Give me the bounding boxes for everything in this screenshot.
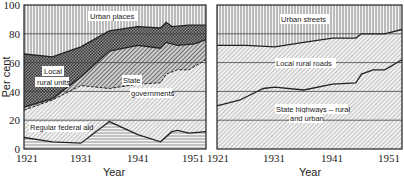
label-urban-streets: Urban streets — [281, 15, 326, 24]
left-chart: Urban places Local rural units State gov… — [0, 0, 206, 178]
label-governments: governments — [131, 89, 175, 98]
label-local: Local — [44, 67, 62, 76]
y-tick: 20 — [9, 114, 21, 126]
right-chart: Urban streets Local rural roads State hi… — [207, 5, 402, 178]
label-rural-units: rural units — [37, 78, 70, 87]
x-tick: 1941 — [127, 152, 149, 164]
x-tick: 1921 — [16, 152, 38, 164]
x-tick: 1931 — [263, 152, 285, 164]
y-tick: 100 — [4, 0, 21, 11]
y-axis-label: Per cent — [0, 57, 12, 98]
x-axis-label: Year — [299, 166, 322, 178]
label-and-urban: and urban — [290, 114, 324, 123]
x-tick: 1951 — [378, 152, 400, 164]
label-urban-places: Urban places — [90, 12, 134, 21]
x-axis-label: Year — [103, 166, 126, 178]
chart-figure: Urban places Local rural units State gov… — [0, 0, 404, 181]
x-tick: 1941 — [321, 152, 343, 164]
x-tick: 1921 — [207, 152, 229, 164]
y-tick: 80 — [9, 28, 21, 40]
label-regular-federal-aid: Regular federal aid — [30, 123, 93, 132]
label-state-highways: State highways – rural — [276, 105, 351, 114]
label-state: State — [123, 76, 141, 85]
x-tick: 1951 — [182, 152, 204, 164]
x-tick: 1931 — [70, 152, 92, 164]
label-local-rural-roads: Local rural roads — [276, 59, 332, 68]
